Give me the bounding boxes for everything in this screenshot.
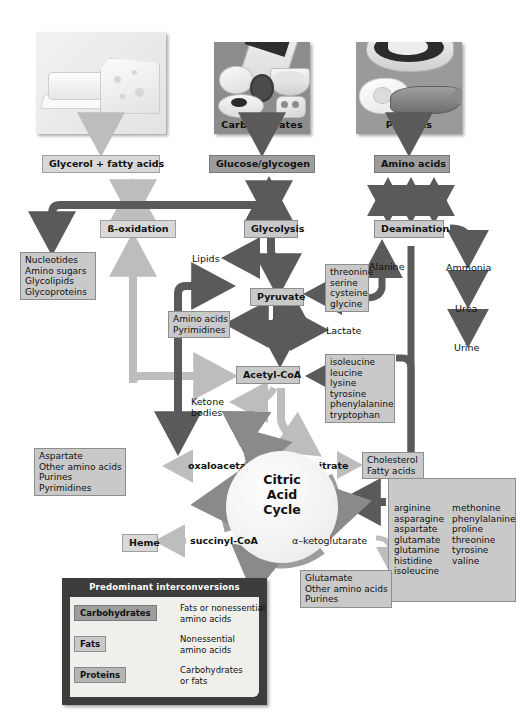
metabolism-diagram: Fats Carbohydrates Proteins [0, 0, 524, 713]
label-ammonia: Ammonia [446, 262, 491, 273]
box-heme: Heme [122, 534, 158, 552]
label-urine: Urine [454, 342, 479, 353]
box-threonine-group: threonine serine cysteine glycine [325, 264, 369, 312]
plate-food-shape [231, 98, 247, 107]
label-lipids: Lipids [192, 253, 220, 264]
glucogenic-column-1: arginine asparagine aspartate glutamate … [394, 503, 444, 577]
cycle-line-1: Citric [226, 472, 338, 487]
arrow-glycolysis-to-pyruvate [271, 235, 278, 290]
legend-panel: Predominant interconversions Carbohydrat… [62, 578, 267, 705]
pasta-shape [276, 96, 306, 118]
source-caption-proteins: Proteins [356, 119, 462, 130]
legend-text-fats: Nonessential amino acids [180, 634, 235, 655]
legend-chip-fats: Fats [74, 636, 106, 652]
label-lactate: Lactate [326, 325, 361, 336]
legend-chip-carbohydrates: Carbohydrates [74, 605, 157, 621]
legend-text-carbohydrates: Fats or nonessential amino acids [180, 603, 265, 624]
legend-text-proteins: Carbohydrates or fats [180, 665, 243, 686]
box-glucose-glycogen: Glucose/glycogen [209, 155, 315, 173]
citric-acid-cycle-label: Citric Acid Cycle [226, 472, 338, 517]
box-ketogenic-amino-acids: isoleucine leucine lysine tyrosine pheny… [325, 354, 395, 423]
box-beta-oxidation: ß-oxidation [100, 220, 176, 238]
box-glucogenic-amino-acids: arginine asparagine aspartate glutamate … [388, 478, 516, 602]
box-deamination: Deamination [374, 220, 444, 238]
legend-row-proteins: Proteins Carbohydrates or fats [70, 665, 259, 696]
cycle-line-2: Acid [226, 487, 338, 502]
box-nucleotides-group: Nucleotides Amino sugars Glycolipids Gly… [20, 252, 96, 300]
source-panel-fats: Fats [36, 32, 166, 134]
pasta-hole-1 [281, 101, 288, 108]
bowl-contents-shape [274, 71, 304, 82]
arrow-oxaloacetate-to-acetylcoa-arc [244, 415, 265, 455]
legend-row-carbohydrates: Carbohydrates Fats or nonessential amino… [70, 603, 259, 634]
source-panel-proteins: Proteins [356, 42, 462, 134]
arrow-deamination-up-2 [396, 286, 406, 476]
cheese-wedge-shape [100, 58, 160, 114]
arrow-betaoxidation-to-acetylcoa [133, 376, 230, 383]
source-caption-fats: Fats [36, 119, 166, 130]
box-amino-acids-pyrimidines: Amino acids Pyrimidines [168, 311, 230, 338]
label-alanine: Alanine [369, 261, 405, 272]
box-pyruvate: Pyruvate [250, 288, 304, 306]
cycle-line-3: Cycle [226, 502, 338, 517]
box-acetyl-coa: Acetyl-CoA [236, 366, 300, 384]
box-aspartate-group: Aspartate Other amino acids Purines Pyri… [34, 448, 126, 496]
label-alpha-ketoglutarate: α–ketoglutarate [292, 535, 367, 546]
box-glutamate-group: Glutamate Other amino acids Purines [300, 570, 392, 608]
label-ketone-bodies: Ketone bodies [191, 396, 224, 418]
arrow-acetylcoa-to-citrate [281, 388, 315, 452]
arrow-ketogenic-elbow [396, 358, 411, 460]
pasta-hole-2 [292, 101, 299, 108]
legend-title: Predominant interconversions [62, 582, 267, 592]
potato-shape [219, 66, 253, 94]
source-caption-carbohydrates: Carbohydrates [214, 119, 310, 130]
box-cholesterol-fatty-acids: Cholesterol Fatty acids [362, 452, 424, 479]
label-urea: Urea [455, 303, 477, 314]
cheese-hole-3 [135, 88, 144, 97]
arrow-acetylcoa-to-ketonebodies [236, 388, 274, 402]
box-glycerol-fatty-acids: Glycerol + fatty acids [42, 155, 160, 173]
legend-chip-proteins: Proteins [74, 667, 126, 683]
label-succinyl-coa: succinyl-CoA [190, 535, 258, 546]
glucogenic-column-2: methonine phenylalanine proline threonin… [452, 503, 515, 577]
box-amino-acids: Amino acids [374, 155, 450, 173]
legend-body: Carbohydrates Fats or nonessential amino… [70, 597, 259, 697]
cheese-hole-2 [132, 70, 137, 75]
box-glycolysis: Glycolysis [244, 220, 298, 238]
source-panel-carbohydrates: Carbohydrates [214, 42, 310, 134]
cheese-hole-4 [120, 94, 125, 99]
arrow-deamination-to-ammonia [450, 228, 468, 262]
legend-row-fats: Fats Nonessential amino acids [70, 634, 259, 665]
fish-shape [390, 86, 460, 114]
cheese-hole-1 [114, 76, 121, 83]
